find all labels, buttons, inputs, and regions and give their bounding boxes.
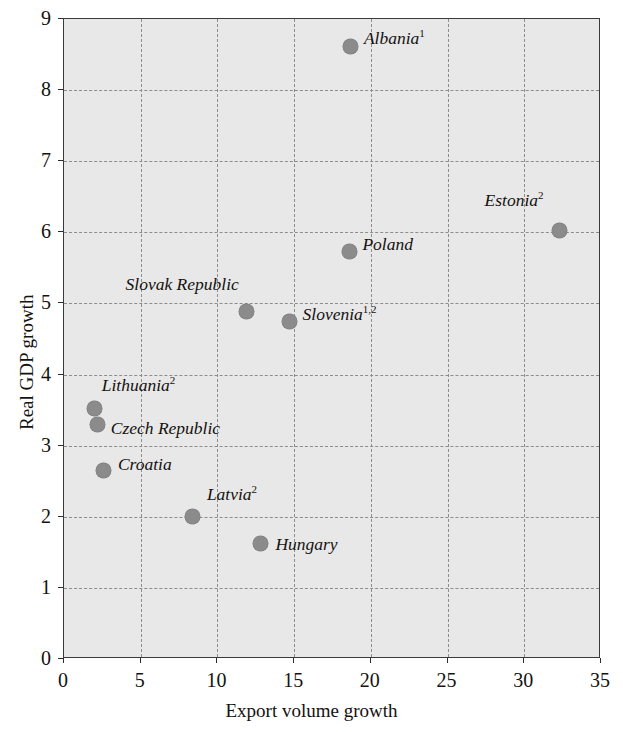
- footnote-marker: 2: [170, 374, 176, 386]
- footnote-marker: 2: [538, 189, 544, 201]
- gridline-vertical: [448, 19, 449, 657]
- x-tick-label: 20: [360, 670, 380, 690]
- data-point-marker: [87, 401, 102, 416]
- x-tick-label: 35: [590, 670, 610, 690]
- y-tick-label: 0: [23, 648, 51, 668]
- gridline-vertical: [217, 19, 218, 657]
- gridline-horizontal: [64, 446, 599, 447]
- footnote-marker: 2: [252, 483, 258, 495]
- data-point-label: Poland: [362, 236, 413, 254]
- y-tick-mark: [58, 374, 63, 375]
- gridline-horizontal: [64, 90, 599, 91]
- y-tick-mark: [58, 18, 63, 19]
- y-tick-label: 8: [23, 79, 51, 99]
- y-tick-mark: [58, 231, 63, 232]
- gridline-horizontal: [64, 232, 599, 233]
- y-tick-mark: [58, 587, 63, 588]
- y-tick-label: 6: [23, 221, 51, 241]
- x-tick-mark: [523, 658, 524, 663]
- data-point-marker: [343, 39, 358, 54]
- y-tick-mark: [58, 89, 63, 90]
- y-tick-mark: [58, 302, 63, 303]
- y-tick-label: 7: [23, 150, 51, 170]
- y-tick-label: 2: [23, 506, 51, 526]
- gridline-horizontal: [64, 517, 599, 518]
- x-tick-mark: [216, 658, 217, 663]
- data-point-marker: [90, 417, 105, 432]
- gridline-vertical: [141, 19, 142, 657]
- x-tick-label: 30: [513, 670, 533, 690]
- data-point-label: Slovenia1,2: [303, 306, 377, 324]
- gridline-horizontal: [64, 588, 599, 589]
- x-tick-mark: [140, 658, 141, 663]
- data-point-label: Croatia: [118, 456, 172, 474]
- x-tick-label: 5: [135, 670, 145, 690]
- x-tick-label: 15: [283, 670, 303, 690]
- y-tick-mark: [58, 658, 63, 659]
- gridline-vertical: [294, 19, 295, 657]
- data-point-label: Latvia2: [207, 486, 257, 504]
- x-axis-title: Export volume growth: [0, 700, 623, 722]
- data-point-marker: [96, 463, 111, 478]
- y-axis-title: Real GDP growth: [16, 295, 38, 430]
- data-point-marker: [185, 509, 200, 524]
- x-tick-label: 10: [206, 670, 226, 690]
- footnote-marker: 1,2: [363, 303, 377, 315]
- data-point-label: Czech Republic: [111, 420, 220, 438]
- y-tick-label: 1: [23, 577, 51, 597]
- data-point-label: Hungary: [275, 536, 337, 554]
- x-tick-mark: [447, 658, 448, 663]
- gridline-vertical: [524, 19, 525, 657]
- plot-area: Albania1Estonia2PolandSlovak RepublicSlo…: [63, 18, 600, 658]
- x-tick-mark: [293, 658, 294, 663]
- scatter-chart-figure: Albania1Estonia2PolandSlovak RepublicSlo…: [0, 0, 623, 732]
- x-tick-mark: [600, 658, 601, 663]
- y-tick-mark: [58, 445, 63, 446]
- y-tick-mark: [58, 160, 63, 161]
- x-tick-label: 25: [437, 670, 457, 690]
- data-point-label: Slovak Republic: [126, 276, 239, 294]
- data-point-marker: [342, 244, 357, 259]
- data-point-marker: [253, 536, 268, 551]
- x-tick-mark: [63, 658, 64, 663]
- y-tick-label: 3: [23, 435, 51, 455]
- data-point-marker: [239, 304, 254, 319]
- x-tick-mark: [370, 658, 371, 663]
- gridline-horizontal: [64, 161, 599, 162]
- footnote-marker: 1: [419, 27, 425, 39]
- data-point-marker: [552, 223, 567, 238]
- y-tick-label: 9: [23, 8, 51, 28]
- gridline-vertical: [371, 19, 372, 657]
- y-tick-mark: [58, 516, 63, 517]
- data-point-label: Albania1: [364, 30, 425, 48]
- x-tick-label: 0: [58, 670, 68, 690]
- data-point-label: Lithuania2: [102, 377, 176, 395]
- data-point-label: Estonia2: [485, 192, 544, 210]
- data-point-marker: [282, 314, 297, 329]
